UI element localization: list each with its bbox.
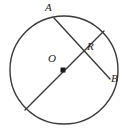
geometry-canvas [0,0,126,132]
point-label-o-center: O [48,53,56,64]
circle-geometry-figure: A R B O [0,0,126,132]
center-point-dot [61,68,66,73]
point-label-r: R [87,41,94,52]
point-label-b: B [111,73,118,84]
point-label-a: A [45,2,52,13]
